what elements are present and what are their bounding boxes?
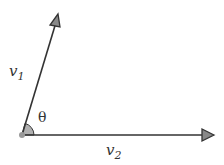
label-v2: v2 [106,141,121,162]
origin-point [19,132,25,138]
vector-angle-diagram: v1 θ v2 [0,0,224,165]
label-theta: θ [38,109,46,125]
vector-v1-arrowhead [50,14,60,27]
vector-v2-arrowhead [202,129,214,141]
label-v1: v1 [9,62,24,83]
